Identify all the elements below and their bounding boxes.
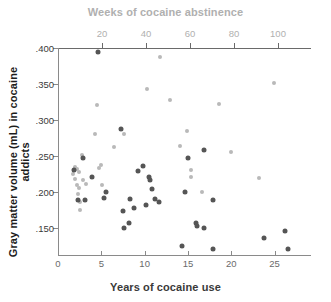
data-point [82,198,87,203]
data-point [78,208,82,212]
data-point [189,168,193,172]
data-point [179,244,184,249]
data-point [189,175,193,179]
data-point [262,236,267,241]
data-point [140,163,145,168]
data-point [272,81,276,85]
data-point [112,145,116,149]
data-point [257,176,261,180]
data-point [200,190,204,194]
data-point [145,87,149,91]
data-point [211,246,216,251]
data-point [135,168,140,173]
data-point [120,209,125,214]
data-point [283,229,288,234]
data-point [149,186,154,191]
data-point [182,190,187,195]
data-point [84,182,88,186]
data-point [185,129,189,133]
scatter-chart: Weeks of cocaine abstinence Years of coc… [0,0,331,302]
data-point [201,148,206,153]
data-point [178,144,182,148]
data-point [103,189,108,194]
data-point [81,155,86,160]
data-point [77,170,81,174]
data-point [119,126,124,131]
data-point [73,177,77,181]
data-point [100,183,104,187]
data-point [127,221,132,226]
data-point [157,199,162,204]
data-point [143,202,148,207]
data-point [147,177,152,182]
data-point [211,198,216,203]
data-point [195,223,200,228]
data-point [76,192,80,196]
data-point [158,55,162,59]
data-point [99,163,103,167]
data-point [71,168,76,173]
data-point [132,205,137,210]
data-point [127,196,132,201]
data-point [89,175,94,180]
data-point [77,186,81,190]
data-point [185,155,190,160]
data-point [95,103,99,107]
data-point [93,132,97,136]
data-point [101,196,106,201]
data-point [217,102,221,106]
data-point [168,98,172,102]
data-point [75,198,80,203]
data-point [95,49,100,54]
data-point [285,247,290,252]
data-point [122,132,126,136]
data-point [202,225,207,230]
plot-area [0,0,331,302]
data-point [229,150,233,154]
data-point [121,226,126,231]
